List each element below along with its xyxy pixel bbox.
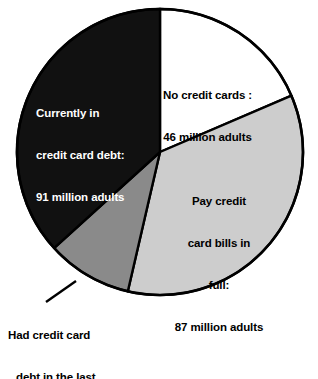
slice-label-currently-in-debt-line1: Currently in <box>36 106 124 120</box>
callout-leader-line <box>46 281 76 302</box>
slice-label-no-credit-cards: No credit cards : 46 million adults <box>163 60 252 172</box>
slice-label-pay-in-full-line3: full: <box>155 278 283 292</box>
slice-label-pay-in-full-line1: Pay credit <box>155 194 283 208</box>
slice-label-had-debt-line2: debt in the last <box>8 370 96 379</box>
pie-chart: No credit cards : 46 million adults Curr… <box>0 0 318 379</box>
slice-label-no-credit-cards-line1: No credit cards : <box>163 88 252 102</box>
slice-label-currently-in-debt-line2: credit card debt: <box>36 148 124 162</box>
slice-label-pay-in-full-line4: 87 million adults <box>155 320 283 334</box>
slice-label-no-credit-cards-line2: 46 million adults <box>163 130 252 144</box>
slice-label-had-debt-line1: Had credit card <box>8 328 96 342</box>
slice-label-had-debt-last-year: Had credit card debt in the last year; n… <box>8 300 96 379</box>
slice-label-currently-in-debt: Currently in credit card debt: 91 millio… <box>36 78 124 232</box>
slice-label-currently-in-debt-line3: 91 million adults <box>36 190 124 204</box>
slice-label-pay-in-full-line2: card bills in <box>155 236 283 250</box>
slice-label-pay-in-full: Pay credit card bills in full: 87 millio… <box>155 166 283 362</box>
